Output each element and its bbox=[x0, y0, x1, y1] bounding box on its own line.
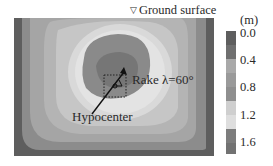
colorbar-tick: 0.4 bbox=[240, 54, 256, 67]
colorbar-unit: (m) bbox=[240, 14, 258, 27]
colorbar-tick: 0.0 bbox=[240, 27, 256, 40]
colorbar-tick: 1.2 bbox=[240, 109, 256, 122]
slip-distribution-figure: ▽Ground surface (m) 0.0 0.4 0.8 1.2 1.6 … bbox=[0, 0, 273, 166]
colorbar bbox=[226, 31, 236, 154]
ground-surface-label: ▽Ground surface bbox=[130, 4, 216, 17]
rake-label: Rake λ=60° bbox=[132, 73, 194, 86]
colorbar-tick: 0.8 bbox=[240, 81, 256, 94]
colorbar-tick: 1.6 bbox=[240, 136, 256, 149]
hypocenter-label: Hypocenter bbox=[72, 110, 133, 123]
down-triangle-icon: ▽ bbox=[130, 5, 137, 15]
